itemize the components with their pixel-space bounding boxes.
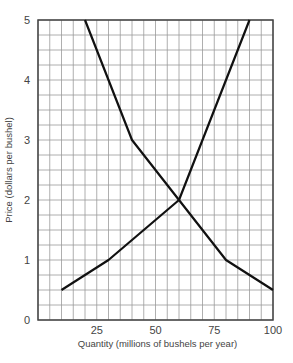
y-axis-label: Price (dollars per bushel): [3, 117, 14, 223]
y-tick-label: 0: [24, 314, 30, 326]
y-axis-ticks: 012345: [24, 14, 30, 326]
x-tick-label: 75: [208, 324, 220, 336]
x-axis-ticks: 255075100: [91, 324, 283, 336]
x-tick-label: 50: [149, 324, 161, 336]
x-axis-label: Quantity (millions of bushels per year): [78, 338, 237, 349]
y-tick-label: 1: [24, 254, 30, 266]
y-tick-label: 3: [24, 134, 30, 146]
y-tick-label: 4: [24, 74, 30, 86]
supply-demand-chart: 012345 255075100 Quantity (millions of b…: [0, 0, 293, 363]
x-tick-label: 100: [264, 324, 282, 336]
x-tick-label: 25: [91, 324, 103, 336]
y-tick-label: 2: [24, 194, 30, 206]
y-tick-label: 5: [24, 14, 30, 26]
